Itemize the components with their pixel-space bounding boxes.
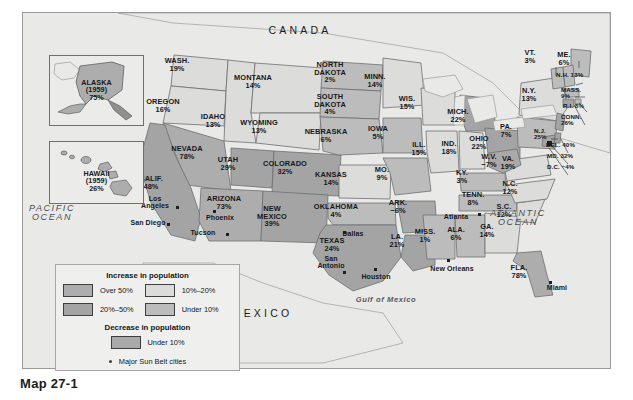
city-marker-los-angeles: [176, 206, 179, 209]
state-value: 14%: [335, 81, 415, 89]
region-name: PACIFICOCEAN: [12, 204, 92, 223]
inset-alaska-label: ALASKA (1959) 75%: [50, 79, 143, 101]
state-value: 9%: [342, 174, 422, 182]
city-marker-miami: [549, 281, 552, 284]
state-value: 4%: [290, 108, 370, 116]
city-label-dallas: Dallas: [313, 230, 393, 237]
city-label-new-orleans: New Orleans: [412, 265, 492, 272]
state-label-nh: N.H. 13%: [556, 72, 583, 78]
state-label-ri: R.I. 8%: [563, 103, 584, 109]
city-marker-san-diego: [167, 223, 170, 226]
city-marker-dallas: [343, 231, 346, 234]
legend-item-10-20: 10%–20%: [145, 284, 219, 297]
state-label-me: ME.6%: [524, 51, 604, 66]
state-value: 9%: [561, 93, 581, 99]
legend-label-decrease: Under 10%: [148, 338, 185, 347]
city-label-phoenix: Phoenix: [180, 214, 260, 221]
state-value: 40%: [562, 141, 575, 148]
state-label-md: MD. 32%: [547, 153, 573, 159]
city-dot-icon: [109, 360, 112, 363]
state-label-nj: N.J.25%: [534, 128, 547, 141]
state-label-ny: N.Y.13%: [489, 87, 569, 102]
inset-hawaii: HAWAII (1959) 26%: [49, 141, 144, 204]
city-marker-phoenix: [213, 210, 216, 213]
region-name: MEXICO: [232, 307, 293, 319]
state-value: 13%: [571, 71, 584, 78]
legend-label-10-20: 10%–20%: [182, 286, 216, 295]
city-label-houston: Houston: [336, 273, 416, 280]
state-label-del: DEL. 40%: [546, 142, 575, 148]
city-label-san-antonio: SanAntonio: [291, 255, 371, 270]
state-name: DEL.: [546, 141, 561, 148]
state-label-southdakota: SOUTHDAKOTA4%: [290, 93, 370, 116]
legend-swatch-over-50: [63, 284, 93, 297]
city-label-tucson: Tucson: [163, 229, 243, 236]
region-name: ATLANTICOCEAN: [478, 209, 558, 228]
state-name: N.H.: [556, 71, 569, 78]
city-marker-tucson: [226, 233, 229, 236]
label-gulf-of-mexico: Gulf of Mexico: [346, 296, 426, 304]
state-value: −4%: [562, 163, 575, 170]
state-label-wv: W.V.−7%: [449, 153, 529, 168]
state-value: 26%: [561, 120, 581, 126]
state-label-dc: D.C. −4%: [547, 164, 574, 170]
state-label-wash: WASH.19%: [137, 57, 217, 72]
legend-swatch-10-20: [145, 284, 175, 297]
region-name: Gulf of Mexico: [346, 296, 426, 304]
state-label-conn: CONN.26%: [561, 114, 581, 127]
inset-alaska-value: 75%: [50, 94, 143, 101]
legend-increase-items: Over 50% 20%–50% 10%–20% Under 10%: [56, 284, 239, 316]
state-label-montana: MONTANA14%: [213, 74, 293, 89]
legend-label-cities: Major Sun Belt cities: [119, 357, 186, 366]
legend-item-under-10: Under 10%: [145, 303, 219, 316]
state-name: MD.: [547, 152, 559, 159]
state-label-nc: N.C.12%: [470, 180, 550, 195]
state-value: 6%: [524, 59, 604, 67]
legend-increase-title: Increase in population: [56, 271, 239, 280]
legend-label-over-50: Over 50%: [100, 286, 133, 295]
state-label-mo: MO.9%: [342, 166, 422, 181]
legend-decrease-title: Decrease in population: [56, 323, 239, 332]
label-atlantic-ocean: ATLANTICOCEAN: [478, 209, 558, 228]
state-value: 13%: [489, 95, 569, 103]
city-marker-houston: [374, 268, 377, 271]
legend-swatch-under-10: [145, 303, 175, 316]
legend-item-over-50: Over 50%: [63, 284, 134, 297]
state-label-iowa: IOWA5%: [338, 125, 418, 140]
state-label-mass: MASS.9%: [561, 87, 581, 100]
legend-item-cities: Major Sun Belt cities: [56, 357, 239, 366]
inset-alaska: ALASKA (1959) 75%: [49, 55, 144, 126]
region-name: CANADA: [269, 24, 332, 36]
legend-decrease-block: Decrease in population Under 10%: [56, 323, 239, 349]
state-value: 25%: [534, 134, 547, 140]
inset-hawaii-label: HAWAII (1959) 26%: [50, 170, 143, 192]
legend-item-decrease-under-10: Under 10%: [56, 336, 239, 349]
state-value: 14%: [213, 82, 293, 90]
map-legend: Increase in population Over 50% 20%–50%: [55, 264, 240, 371]
city-marker-new-orleans: [447, 259, 450, 262]
state-value: 78%: [479, 272, 559, 280]
map-frame: .o{stroke:#6d6f71;stroke-width:.8;} .w{f…: [22, 12, 611, 369]
legend-label-under-10: Under 10%: [182, 305, 219, 314]
state-value: 14%: [447, 231, 527, 239]
state-label-minn: MINN.14%: [335, 73, 415, 88]
state-value: 12%: [470, 188, 550, 196]
legend-swatch-decrease: [111, 336, 141, 349]
state-name: D.C.: [547, 163, 560, 170]
state-value: 5%: [338, 133, 418, 141]
legend-swatch-20-50: [63, 303, 93, 316]
legend-item-20-50: 20%–50%: [63, 303, 134, 316]
state-value: 22%: [439, 143, 519, 151]
state-value: 8%: [575, 102, 584, 109]
state-label-mich: MICH.22%: [418, 108, 498, 123]
inset-hawaii-value: 26%: [50, 185, 143, 192]
state-name: R.I.: [563, 102, 573, 109]
city-label-san-diego: San Diego: [108, 219, 188, 226]
legend-label-20-50: 20%–50%: [100, 305, 134, 314]
state-value: −7%: [449, 161, 529, 169]
state-value: 19%: [137, 65, 217, 73]
figure-caption: Map 27-1: [20, 376, 78, 391]
city-label-miami: Miami: [517, 284, 597, 291]
label-canada: CANADA: [260, 25, 340, 36]
label-pacific-ocean: PACIFICOCEAN: [12, 204, 92, 223]
